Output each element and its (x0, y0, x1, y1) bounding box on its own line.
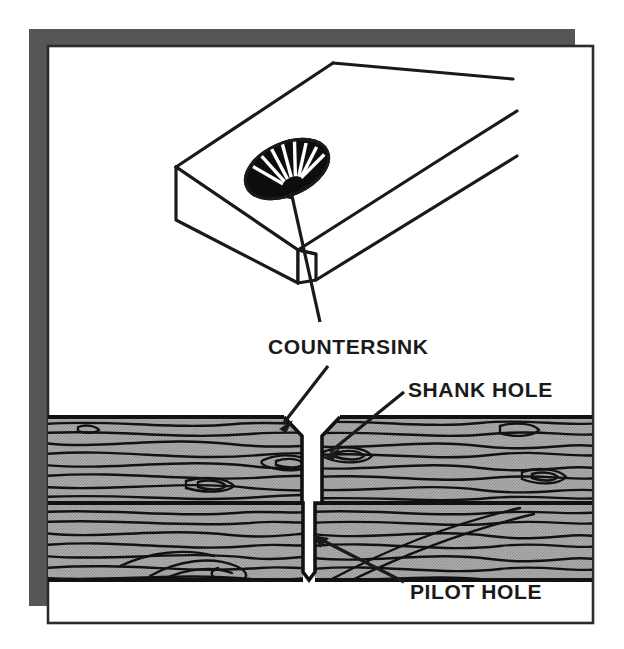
label-countersink: COUNTERSINK (268, 335, 429, 358)
label-pilot-hole: PILOT HOLE (410, 580, 542, 603)
upper-board-right (300, 410, 600, 510)
figure-canvas: COUNTERSINK SHANK HOLE PILOT HOLE (0, 0, 624, 649)
wood-cross-section (40, 410, 600, 590)
lower-board-right (300, 500, 600, 590)
label-shank-hole: SHANK HOLE (408, 378, 553, 401)
countersink-illustration: COUNTERSINK SHANK HOLE PILOT HOLE (0, 0, 624, 649)
